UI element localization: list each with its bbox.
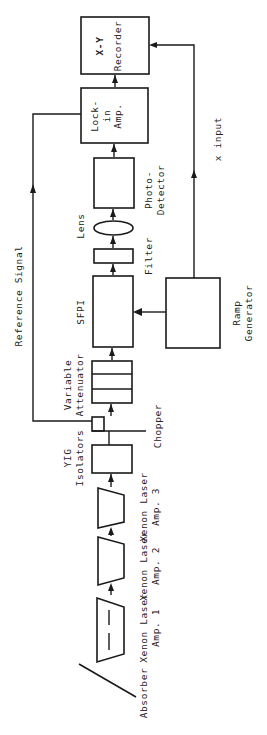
ramp-to-sfpi-line — [133, 308, 166, 316]
arrow-up-icon — [109, 348, 115, 356]
x-input-label: x input — [212, 117, 223, 161]
arrow-up-icon — [110, 209, 116, 217]
xenon-amp3-shape — [98, 488, 124, 528]
yig-label-2: Isolators — [74, 430, 85, 487]
variable-attenuator-block — [92, 361, 132, 403]
amp2-label-2: Amp. 2 — [150, 547, 161, 585]
chopper-label: Chopper — [152, 404, 163, 448]
arrow-up-icon — [111, 144, 117, 152]
lens-label: Lens — [75, 213, 86, 238]
photodetector-block — [94, 158, 134, 208]
filter-label: Filter — [143, 237, 154, 275]
lockin-label-3: Amp. — [112, 103, 123, 128]
chopper-block — [92, 417, 104, 431]
sfpi-block — [93, 276, 133, 347]
arrow-up-icon — [191, 170, 197, 178]
attenuator-label-2: Attenuator — [74, 353, 85, 416]
arrow-up-icon — [110, 264, 116, 272]
x-input-line — [149, 42, 197, 278]
arrow-up-icon — [112, 75, 118, 83]
arrow-up-icon — [108, 404, 114, 412]
xenon-amp1-shape — [97, 598, 124, 662]
lockin-label-2: in — [101, 110, 112, 123]
amp2-label-1: Xenon Laser — [138, 531, 149, 601]
arrow-up-icon — [108, 527, 114, 535]
ramp-generator-label-1: Ramp — [231, 300, 242, 325]
beam-arrows — [108, 75, 118, 595]
absorber-label: Absorber — [138, 668, 149, 719]
reference-signal-label: Reference Signal — [13, 245, 24, 346]
filter-block — [94, 249, 133, 263]
arrow-up-icon — [108, 583, 114, 591]
amp1-label-2: Amp. 1 — [150, 609, 161, 647]
amp3-label-2: Amp. 3 — [150, 488, 161, 526]
lens-shape — [94, 221, 133, 235]
xenon-amp2-shape — [98, 537, 124, 585]
yig-isolators-block — [92, 445, 132, 473]
lockin-label-1: Lock- — [89, 100, 100, 132]
xy-recorder-label-2: Recorder — [112, 21, 123, 72]
optical-setup-block-diagram: X-Y Recorder Lock- in Amp. Photo- Detect… — [0, 0, 267, 735]
arrow-left-icon — [149, 42, 157, 48]
chopper-assembly — [92, 417, 146, 445]
attenuator-label-1: Variable — [62, 360, 73, 411]
ramp-generator-block — [166, 278, 220, 348]
xy-recorder-label: X-Y — [94, 37, 105, 56]
yig-label-1: YIG — [62, 449, 73, 468]
photodetector-label-2: Detector — [155, 165, 166, 216]
sfpi-label: SFPI — [75, 299, 86, 324]
arrow-left-icon — [133, 308, 142, 316]
arrow-up-icon — [110, 236, 116, 244]
arrow-up-icon — [30, 184, 36, 193]
photodetector-label-1: Photo- — [143, 171, 154, 209]
arrow-up-icon — [108, 474, 114, 482]
ramp-generator-label-2: Generator — [243, 285, 254, 342]
amp1-label-1: Xenon Laser — [138, 593, 149, 663]
absorber-line — [79, 664, 136, 697]
